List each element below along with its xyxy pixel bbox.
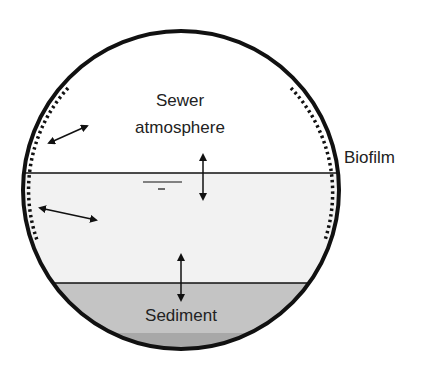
deep-sediment-zone <box>0 333 425 373</box>
atmosphere-label-line2: atmosphere <box>135 118 225 137</box>
wastewater-zone <box>0 173 425 283</box>
atmosphere-label-line1: Sewer <box>156 91 205 110</box>
sewer-cross-section-diagram: Sewer atmosphere Biofilm Sediment <box>0 0 425 375</box>
biofilm-label: Biofilm <box>344 148 395 167</box>
sediment-label: Sediment <box>145 306 217 325</box>
